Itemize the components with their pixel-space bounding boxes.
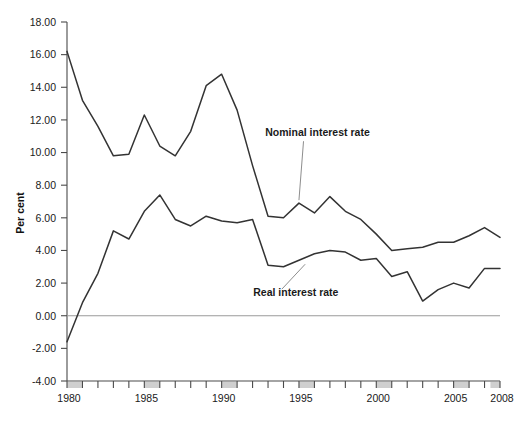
annotation-label-nominal-interest-rate: Nominal interest rate xyxy=(265,126,370,138)
y-tick-label: -4.00 xyxy=(32,375,56,387)
y-tick-label: 12.00 xyxy=(30,114,56,126)
x-axis-year-band-1990 xyxy=(222,382,237,388)
annotation-label-real-interest-rate: Real interest rate xyxy=(253,286,338,298)
y-tick-label: 2.00 xyxy=(36,277,57,289)
chart-container: 18.0016.0014.0012.0010.008.006.004.002.0… xyxy=(0,0,518,423)
chart-background xyxy=(0,0,518,423)
y-tick-label: 6.00 xyxy=(36,212,57,224)
y-tick-label: -2.00 xyxy=(32,342,56,354)
y-tick-label: 4.00 xyxy=(36,244,57,256)
x-axis-year-band-1980 xyxy=(67,382,82,388)
x-axis-year-band-2000 xyxy=(376,382,391,388)
x-axis-year-band-2005 xyxy=(454,382,469,388)
x-tick-label: 1980 xyxy=(57,392,81,404)
x-tick-label: 1995 xyxy=(289,392,313,404)
x-tick-label: 1990 xyxy=(212,392,236,404)
x-axis-year-band-1985 xyxy=(144,382,159,388)
y-axis-title: Per cent xyxy=(14,192,26,234)
interest-rate-line-chart: 18.0016.0014.0012.0010.008.006.004.002.0… xyxy=(0,0,518,423)
x-tick-label: 2008 xyxy=(490,392,514,404)
x-tick-label: 1985 xyxy=(135,392,159,404)
y-tick-label: 16.00 xyxy=(30,48,56,60)
y-tick-label: 10.00 xyxy=(30,146,56,158)
y-tick-label: 18.00 xyxy=(30,16,56,28)
x-tick-label: 2000 xyxy=(367,392,391,404)
y-tick-label: 0.00 xyxy=(36,310,57,322)
y-tick-label: 8.00 xyxy=(36,179,57,191)
y-tick-label: 14.00 xyxy=(30,81,56,93)
x-axis-year-band-1995 xyxy=(299,382,314,388)
x-tick-label: 2005 xyxy=(444,392,468,404)
x-axis-year-band-2008 xyxy=(490,382,500,388)
